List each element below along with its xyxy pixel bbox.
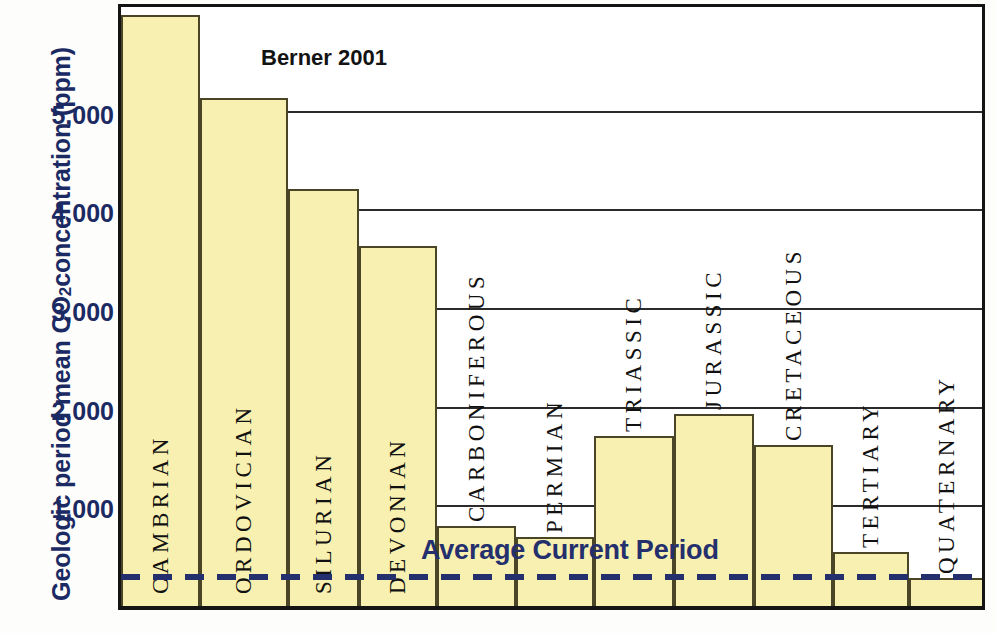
bar-label-holder: TRIASSIC: [594, 431, 674, 432]
bar-label-holder: TERTIARY: [833, 547, 909, 548]
bar-label-quaternary: QUATERNARY: [934, 375, 960, 575]
y-axis-tick-1000: 1,000: [30, 495, 114, 524]
bar-label-holder: CRETACEOUS: [754, 440, 833, 441]
reference-line-dashed: [121, 574, 982, 580]
bar-label-devonian: DEVONIAN: [385, 437, 411, 594]
plot-area: CAMBRIANORDOVICIANSILURIANDEVONIANCARBON…: [118, 4, 985, 610]
source-annotation: Berner 2001: [261, 45, 387, 71]
bar-label-cambrian: CAMBRIAN: [148, 434, 174, 594]
bar-triassic: [594, 436, 674, 606]
bar-ordovician: ORDOVICIAN: [200, 98, 288, 606]
bar-label-holder: CARBONIFEROUS: [437, 521, 516, 522]
bar-label-permian: PERMIAN: [542, 398, 568, 533]
co2-bar-chart: Geologic period mean CO2 concentration (…: [0, 0, 996, 633]
bar-label-tertiary: TERTIARY: [858, 401, 884, 548]
reference-line-label: Average Current Period: [421, 535, 719, 566]
y-axis-tick-5000: 5,000: [30, 100, 114, 129]
bar-quaternary: [909, 578, 985, 606]
bar-label-triassic: TRIASSIC: [621, 294, 647, 432]
bar-label-cretaceous: CRETACEOUS: [781, 247, 807, 441]
bar-label-jurassic: JURASSIC: [701, 267, 727, 409]
bars: CAMBRIANORDOVICIANSILURIANDEVONIANCARBON…: [121, 7, 982, 606]
y-axis-tick-3000: 3,000: [30, 297, 114, 326]
bar-cretaceous: [754, 445, 833, 606]
bar-label-ordovician: ORDOVICIAN: [231, 403, 257, 594]
bar-cambrian: CAMBRIAN: [121, 15, 200, 606]
y-axis-tick-4000: 4,000: [30, 199, 114, 228]
bar-label-carboniferous: CARBONIFEROUS: [464, 272, 490, 522]
y-axis-tick-labels: 1,0002,0003,0004,0005,000: [30, 0, 114, 633]
bar-label-silurian: SILURIAN: [311, 451, 337, 594]
bar-silurian: SILURIAN: [288, 189, 359, 606]
bar-label-holder: PERMIAN: [516, 532, 594, 533]
bar-label-holder: JURASSIC: [674, 409, 754, 410]
y-axis-tick-2000: 2,000: [30, 396, 114, 425]
